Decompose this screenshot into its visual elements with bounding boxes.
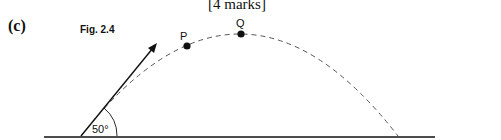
point-p-label: P — [180, 30, 187, 42]
point-q-marker — [237, 30, 244, 37]
angle-label: 50° — [92, 123, 109, 135]
point-q-label: Q — [236, 17, 245, 29]
projectile-diagram: 50° P Q — [0, 0, 501, 140]
point-p-marker — [183, 42, 190, 49]
trajectory-path — [81, 34, 398, 136]
